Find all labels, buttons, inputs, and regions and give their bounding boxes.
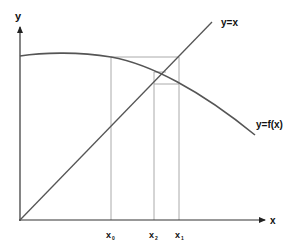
tick-x1: x 1 — [175, 230, 184, 241]
tick-x1-main: x — [175, 230, 180, 240]
function-label: y=f(x) — [256, 119, 283, 130]
function-curve — [20, 53, 255, 135]
tick-x0-main: x — [106, 230, 111, 240]
guide-lines — [111, 57, 179, 220]
tick-x2-sub: 2 — [155, 235, 158, 241]
tick-x0: x 0 — [106, 230, 115, 241]
identity-line — [20, 22, 212, 220]
identity-label: y=x — [221, 17, 238, 28]
tick-x2-main: x — [149, 230, 154, 240]
tick-x0-sub: 0 — [112, 235, 115, 241]
tick-x1-sub: 1 — [181, 235, 184, 241]
tick-x2: x 2 — [149, 230, 158, 241]
x-axis-label: x — [270, 215, 276, 226]
y-axis-label: y — [15, 10, 22, 22]
cobweb-diagram: y x y=x y=f(x) x 0 x 2 x 1 — [0, 0, 294, 242]
